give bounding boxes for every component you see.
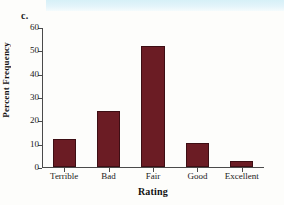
figure-panel: c. Percent Frequency 0102030405060 Terri… <box>0 0 284 205</box>
plot-area: 0102030405060 TerribleBadFairGoodExcelle… <box>42 28 264 168</box>
bar <box>186 143 209 168</box>
bar <box>97 111 120 167</box>
x-tick-label: Excellent <box>225 171 259 181</box>
y-tick-label: 10 <box>30 139 39 149</box>
panel-label: c. <box>21 10 28 21</box>
x-axis-title: Rating <box>42 186 264 197</box>
x-tick-label: Bad <box>101 171 116 181</box>
bar <box>230 161 253 167</box>
x-tick-label: Good <box>187 171 207 181</box>
bar <box>141 46 164 167</box>
y-tick-label: 40 <box>30 69 39 79</box>
scan-artifact-strip <box>46 0 284 11</box>
y-tick-label: 20 <box>30 115 39 125</box>
y-tick-label: 60 <box>30 22 39 32</box>
y-tick-label: 30 <box>30 92 39 102</box>
y-tick-label: 0 <box>35 162 40 172</box>
x-tick-label: Fair <box>146 171 161 181</box>
x-tick-label: Terrible <box>50 171 78 181</box>
y-axis-line <box>42 28 43 168</box>
bar <box>53 139 76 167</box>
y-axis-title: Percent Frequency <box>1 42 11 118</box>
y-tick-label: 50 <box>30 45 39 55</box>
